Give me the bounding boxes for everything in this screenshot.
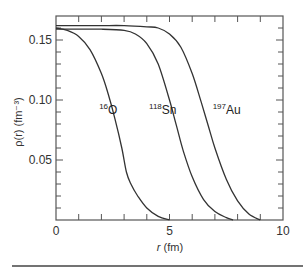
y-tick-label: 0.10	[29, 93, 53, 107]
plot-frame	[56, 16, 283, 220]
tick-labels: 05100.050.100.15	[29, 33, 290, 238]
label-16o: 16O	[99, 102, 117, 117]
curve-197au	[56, 26, 260, 220]
x-tick-label: 10	[276, 224, 290, 238]
curve-16o	[56, 28, 170, 220]
y-tick-label: 0.05	[29, 153, 53, 167]
nuclear-density-chart: 05100.050.100.15 16O118Sn197Au r (fm) ρ(…	[0, 0, 303, 274]
label-118sn: 118Sn	[149, 102, 176, 117]
curve-labels: 16O118Sn197Au	[99, 102, 241, 117]
x-tick-label: 0	[53, 224, 60, 238]
label-197au: 197Au	[213, 102, 241, 117]
plot-area-border	[56, 16, 283, 220]
y-tick-label: 0.15	[29, 33, 53, 47]
axis-ticks	[56, 16, 283, 220]
curve-118sn	[56, 29, 233, 220]
x-tick-label: 5	[166, 224, 173, 238]
density-curves	[56, 26, 260, 220]
y-axis-label: ρ(r) (fm⁻³)	[12, 97, 24, 147]
x-axis-label: r (fm)	[157, 241, 183, 253]
